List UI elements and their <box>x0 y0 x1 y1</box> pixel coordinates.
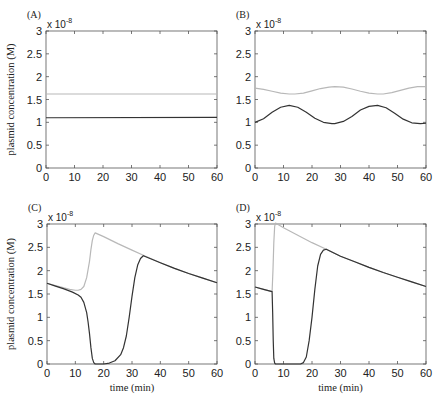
figure: 010203040506000.511.522.53x 10-8(A)plasm… <box>0 0 441 399</box>
x-tick-label: 30 <box>334 171 346 183</box>
x-tick-label: 40 <box>154 367 166 379</box>
y-tick-label: 3 <box>36 25 42 37</box>
panel-label: (C) <box>28 202 41 214</box>
plot-area <box>46 31 217 168</box>
y-tick-label: 0.5 <box>236 139 251 151</box>
x-tick-label: 10 <box>277 367 289 379</box>
x-tick-label: 10 <box>277 171 289 183</box>
panel-d: 010203040506000.511.522.53x 10-8(D)time … <box>236 202 432 394</box>
panel-c: 010203040506000.511.522.53x 10-8(C)plasm… <box>5 202 223 394</box>
y-tick-label: 0.5 <box>27 139 42 151</box>
exponent-label: x 10-8 <box>47 17 72 30</box>
x-tick-label: 0 <box>43 171 49 183</box>
x-tick-label: 10 <box>68 171 80 183</box>
y-tick-label: 0 <box>245 162 251 174</box>
y-tick-label: 1.5 <box>236 288 251 300</box>
y-tick-label: 2.5 <box>27 48 42 60</box>
y-tick-label: 2 <box>245 71 251 83</box>
x-tick-label: 40 <box>154 171 166 183</box>
y-tick-label: 2.5 <box>28 241 43 253</box>
x-tick-label: 60 <box>420 171 432 183</box>
exponent-label: x 10-8 <box>48 210 73 223</box>
y-axis-label: plasmid concentration (M) <box>5 238 17 350</box>
y-tick-label: 1 <box>245 311 251 323</box>
x-tick-label: 0 <box>252 171 258 183</box>
y-tick-label: 2.5 <box>236 48 251 60</box>
y-tick-label: 1.5 <box>236 94 251 106</box>
y-tick-label: 2.5 <box>236 241 251 253</box>
x-tick-label: 30 <box>125 171 137 183</box>
y-tick-label: 0 <box>37 358 43 370</box>
x-tick-label: 20 <box>306 171 318 183</box>
exponent-label: x 10-8 <box>256 17 281 30</box>
x-tick-label: 60 <box>211 367 223 379</box>
x-tick-label: 50 <box>391 171 403 183</box>
x-tick-label: 20 <box>97 171 109 183</box>
y-tick-label: 0 <box>245 358 251 370</box>
x-tick-label: 60 <box>211 171 223 183</box>
x-tick-label: 40 <box>363 367 375 379</box>
y-tick-label: 1.5 <box>28 288 43 300</box>
y-tick-label: 2 <box>36 71 42 83</box>
x-tick-label: 10 <box>69 367 81 379</box>
panel-label: (B) <box>236 9 249 21</box>
x-tick-label: 20 <box>306 367 318 379</box>
x-tick-label: 0 <box>44 367 50 379</box>
x-tick-label: 30 <box>126 367 138 379</box>
panel-b: 010203040506000.511.522.53x 10-8(B) <box>236 9 432 183</box>
plot-area <box>255 224 426 364</box>
y-tick-label: 2 <box>37 265 43 277</box>
x-tick-label: 20 <box>98 367 110 379</box>
y-tick-label: 0 <box>36 162 42 174</box>
x-tick-label: 50 <box>391 367 403 379</box>
x-tick-label: 0 <box>252 367 258 379</box>
exponent-label: x 10-8 <box>256 210 281 223</box>
y-tick-label: 3 <box>245 25 251 37</box>
y-tick-label: 1 <box>37 311 43 323</box>
panel-label: (A) <box>27 9 41 21</box>
y-tick-label: 0.5 <box>28 335 43 347</box>
y-tick-label: 2 <box>245 265 251 277</box>
y-tick-label: 3 <box>37 218 43 230</box>
panel-label: (D) <box>236 202 250 214</box>
y-tick-label: 1 <box>36 116 42 128</box>
x-axis-label: time (min) <box>110 382 155 394</box>
x-tick-label: 30 <box>334 367 346 379</box>
y-axis-label: plasmid concentration (M) <box>5 43 17 155</box>
x-axis-label: time (min) <box>318 382 363 394</box>
y-tick-label: 1 <box>245 116 251 128</box>
plot-area <box>255 31 426 168</box>
y-tick-label: 1.5 <box>27 94 42 106</box>
x-tick-label: 50 <box>183 367 195 379</box>
x-tick-label: 40 <box>363 171 375 183</box>
x-tick-label: 50 <box>182 171 194 183</box>
x-tick-label: 60 <box>420 367 432 379</box>
y-tick-label: 3 <box>245 218 251 230</box>
panel-a: 010203040506000.511.522.53x 10-8(A)plasm… <box>5 9 223 183</box>
y-tick-label: 0.5 <box>236 335 251 347</box>
